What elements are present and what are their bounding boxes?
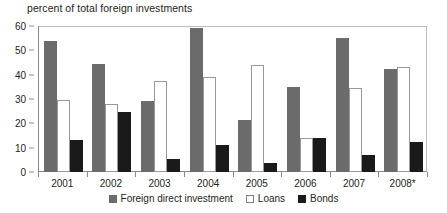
x-axis-tick-label: 2002 [100, 178, 122, 189]
bar-chart-figure: percent of total foreign investments 010… [0, 0, 447, 213]
x-axis-tick-mark [184, 172, 185, 177]
bar-group [141, 26, 180, 172]
chart-title: percent of total foreign investments [27, 2, 192, 14]
bar-fdi [141, 101, 154, 172]
bar-fdi [287, 87, 300, 172]
bar-loans [251, 65, 264, 172]
y-axis-tick-mark [29, 172, 34, 173]
x-axis-tick-label: 2003 [148, 178, 170, 189]
bar-loans [154, 81, 167, 172]
x-axis-tick-label: 2007 [343, 178, 365, 189]
y-axis-tick-label: 40 [15, 69, 26, 80]
bar-fdi [92, 64, 105, 172]
outlined-white-square-icon [246, 195, 254, 203]
bar-fdi [238, 120, 251, 172]
bar-bonds [313, 138, 326, 172]
filled-black-square-icon [298, 195, 306, 203]
legend-item: Loans [246, 193, 285, 204]
x-axis-tick-mark [135, 172, 136, 177]
bar-group [190, 26, 229, 172]
x-axis-tick-label: 2006 [294, 178, 316, 189]
y-axis-tick-mark [29, 26, 34, 27]
legend-item-label: Loans [258, 193, 285, 204]
bar-fdi [336, 38, 349, 172]
y-axis-tick-mark [29, 74, 34, 75]
x-axis-tick-mark [233, 172, 234, 177]
legend-item-label: Bonds [310, 193, 338, 204]
bar-bonds [216, 145, 229, 172]
x-axis-tick-mark [378, 172, 379, 177]
x-axis-tick-mark [281, 172, 282, 177]
bar-fdi [384, 69, 397, 172]
bar-fdi [190, 28, 203, 172]
y-axis-tick-label: 30 [15, 94, 26, 105]
filled-gray-square-icon [109, 195, 117, 203]
bar-bonds [70, 140, 83, 172]
x-axis-tick-label: 2004 [197, 178, 219, 189]
legend-item: Foreign direct investment [109, 193, 233, 204]
bar-bonds [264, 163, 277, 172]
bar-loans [203, 77, 216, 172]
y-axis-tick-label: 50 [15, 45, 26, 56]
y-axis-tick-mark [29, 123, 34, 124]
legend-item-label: Foreign direct investment [121, 193, 233, 204]
bar-loans [105, 104, 118, 172]
y-axis-tick-label: 0 [20, 167, 26, 178]
bar-loans [57, 100, 70, 172]
bar-bonds [167, 159, 180, 172]
y-axis-tick-label: 10 [15, 142, 26, 153]
x-axis-tick-label: 2001 [51, 178, 73, 189]
x-axis-tick-mark [87, 172, 88, 177]
bar-loans [349, 88, 362, 172]
bar-group [92, 26, 131, 172]
bar-fdi [44, 41, 57, 172]
y-axis: 0102030405060 [0, 26, 34, 172]
legend-item: Bonds [298, 193, 338, 204]
bar-bonds [362, 155, 375, 172]
bar-group [44, 26, 83, 172]
y-axis-tick-mark [29, 50, 34, 51]
bar-group [384, 26, 423, 172]
x-axis-tick-mark [38, 172, 39, 177]
x-axis-tick-mark [427, 172, 428, 177]
x-axis-tick-label: 2008* [390, 178, 416, 189]
bar-bonds [118, 112, 131, 172]
bar-bonds [410, 142, 423, 172]
bar-loans [300, 138, 313, 172]
y-axis-tick-mark [29, 147, 34, 148]
bar-group [287, 26, 326, 172]
bar-group [336, 26, 375, 172]
bar-group [238, 26, 277, 172]
x-axis-tick-label: 2005 [246, 178, 268, 189]
bars-layer [38, 26, 427, 172]
x-axis-tick-mark [330, 172, 331, 177]
chart-legend: Foreign direct investmentLoansBonds [0, 193, 447, 204]
y-axis-tick-label: 20 [15, 118, 26, 129]
y-axis-tick-mark [29, 99, 34, 100]
bar-loans [397, 67, 410, 172]
y-axis-tick-label: 60 [15, 21, 26, 32]
plot-area [38, 26, 427, 172]
